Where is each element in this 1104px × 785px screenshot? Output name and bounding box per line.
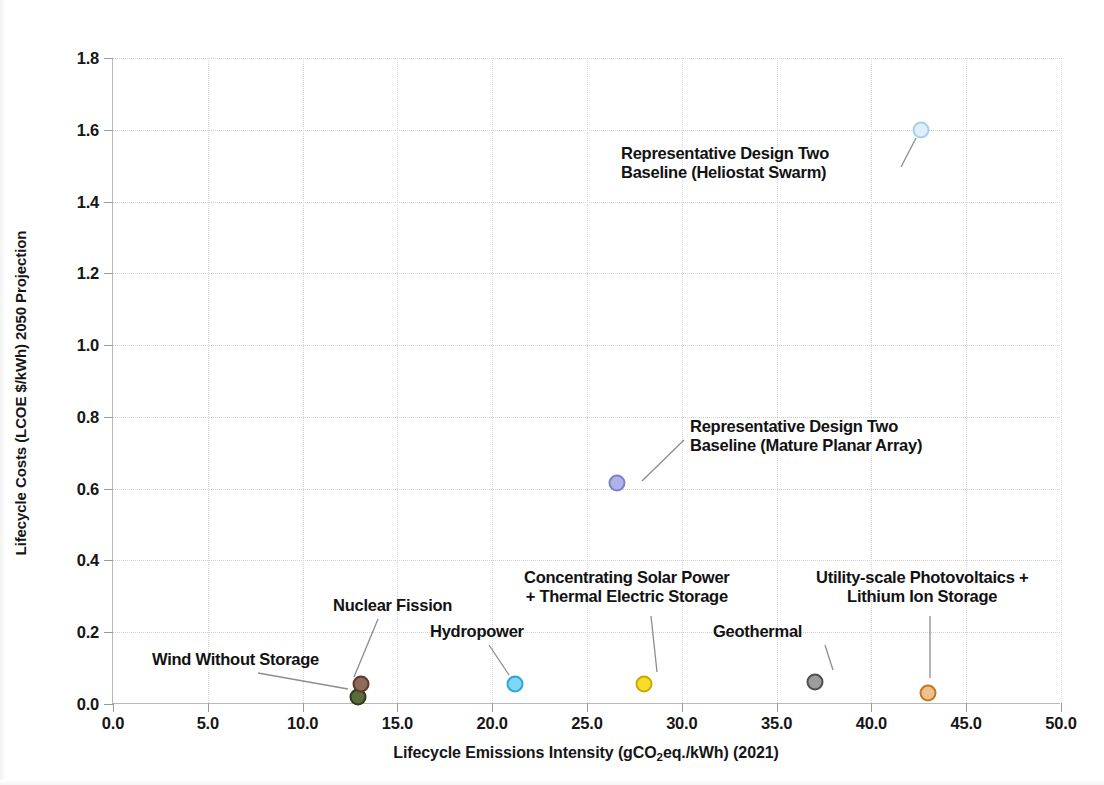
annotation-representative-design-two-heliostat-swarm: Representative Design Two Baseline (Heli… bbox=[621, 144, 829, 183]
y-axis-tick bbox=[104, 273, 113, 274]
y-axis-tick-label: 1.6 bbox=[77, 120, 99, 139]
y-axis-title: Lifecycle Costs (LCOE $/kWh) 2050 Projec… bbox=[12, 230, 29, 555]
data-point-marker bbox=[920, 685, 937, 702]
plot-area: 0.00.20.40.60.81.01.21.41.61.8 0.05.010.… bbox=[112, 58, 1060, 704]
gridline-vertical bbox=[208, 58, 209, 703]
x-axis-tick bbox=[777, 703, 778, 712]
x-axis-tick-label: 20.0 bbox=[477, 714, 508, 733]
scan-edge-bottom bbox=[0, 780, 1104, 785]
annotation-nuclear-fission: Nuclear Fission bbox=[333, 596, 452, 615]
x-axis-tick-label: 50.0 bbox=[1045, 714, 1076, 733]
annotation-hydropower: Hydropower bbox=[430, 622, 524, 641]
data-point-marker bbox=[635, 676, 652, 693]
annotation-geothermal: Geothermal bbox=[713, 622, 802, 641]
scan-edge-left bbox=[0, 0, 6, 785]
y-axis-tick-label: 0.8 bbox=[77, 407, 99, 426]
x-axis-tick bbox=[1061, 703, 1062, 712]
y-axis-tick-label: 1.2 bbox=[77, 264, 99, 283]
data-point-marker bbox=[506, 676, 523, 693]
x-axis-title-post: eq./kWh) (2021) bbox=[663, 744, 779, 761]
x-axis-title: Lifecycle Emissions Intensity (gCO2eq./k… bbox=[112, 744, 1060, 763]
x-axis-tick-label: 45.0 bbox=[951, 714, 982, 733]
y-axis-tick bbox=[104, 345, 113, 346]
x-axis-tick bbox=[492, 703, 493, 712]
annotation-utility-scale-photovoltaics: Utility-scale Photovoltaics + Lithium Io… bbox=[816, 568, 1028, 607]
data-point-marker bbox=[353, 676, 370, 693]
annotation-representative-design-two-mature-planar-array: Representative Design Two Baseline (Matu… bbox=[690, 417, 922, 456]
y-axis-tick-label: 0.6 bbox=[77, 479, 99, 498]
gridline-vertical bbox=[303, 58, 304, 703]
y-axis-tick-label: 1.8 bbox=[77, 49, 99, 68]
x-axis-tick-label: 40.0 bbox=[856, 714, 887, 733]
annotation-concentrating-solar-power: Concentrating Solar Power + Thermal Elec… bbox=[524, 568, 730, 607]
data-point-marker bbox=[912, 121, 929, 138]
x-axis-tick bbox=[966, 703, 967, 712]
lcoe-vs-emissions-scatter-chart: Lifecycle Costs (LCOE $/kWh) 2050 Projec… bbox=[0, 0, 1104, 785]
data-point-marker bbox=[806, 674, 823, 691]
x-axis-tick bbox=[208, 703, 209, 712]
x-axis-tick bbox=[303, 703, 304, 712]
x-axis-tick-label: 35.0 bbox=[761, 714, 792, 733]
x-axis-tick-label: 10.0 bbox=[287, 714, 318, 733]
x-axis-tick bbox=[871, 703, 872, 712]
x-axis-tick bbox=[113, 703, 114, 712]
x-axis-tick-label: 30.0 bbox=[666, 714, 697, 733]
x-axis-tick-label: 5.0 bbox=[197, 714, 219, 733]
y-axis-tick bbox=[104, 417, 113, 418]
y-axis-tick bbox=[104, 560, 113, 561]
x-axis-tick bbox=[587, 703, 588, 712]
annotation-wind-without-storage: Wind Without Storage bbox=[152, 650, 319, 669]
y-axis-tick bbox=[104, 202, 113, 203]
y-axis-tick bbox=[104, 58, 113, 59]
y-axis-tick bbox=[104, 632, 113, 633]
x-axis-tick bbox=[682, 703, 683, 712]
x-axis-title-pre: Lifecycle Emissions Intensity (gCO bbox=[393, 744, 656, 761]
y-axis-tick bbox=[104, 704, 113, 705]
y-axis-tick-label: 1.4 bbox=[77, 192, 99, 211]
x-axis-tick-label: 15.0 bbox=[382, 714, 413, 733]
y-axis-tick-label: 0.2 bbox=[77, 623, 99, 642]
x-axis-tick bbox=[397, 703, 398, 712]
y-axis-tick-label: 1.0 bbox=[77, 336, 99, 355]
y-axis-tick bbox=[104, 130, 113, 131]
x-axis-tick-label: 0.0 bbox=[102, 714, 124, 733]
y-axis-tick-label: 0.0 bbox=[77, 695, 99, 714]
gridline-vertical bbox=[1061, 58, 1062, 703]
y-axis-tick bbox=[104, 489, 113, 490]
gridline-vertical bbox=[492, 58, 493, 703]
y-axis-tick-label: 0.4 bbox=[77, 551, 99, 570]
data-point-marker bbox=[609, 475, 626, 492]
x-axis-tick-label: 25.0 bbox=[571, 714, 602, 733]
